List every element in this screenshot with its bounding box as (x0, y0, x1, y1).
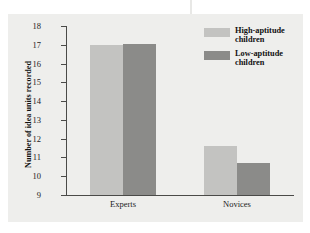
y-axis-tick (61, 176, 66, 177)
y-axis-tick (61, 157, 66, 158)
y-axis-tick (61, 64, 66, 65)
bar (204, 146, 237, 195)
legend-label-high-aptitude: High-aptitude children (235, 26, 301, 44)
scan-artifact (190, 0, 192, 14)
y-axis-tick-label: 10 (1, 172, 41, 181)
figure: Number of idea units recorded 1817161514… (0, 0, 310, 233)
x-axis-tick-label: Novices (180, 200, 294, 209)
y-axis-tick-label: 16 (1, 60, 41, 69)
y-axis-tick-label: 12 (1, 135, 41, 144)
chart-legend: High-aptitude children Low-aptitude chil… (204, 27, 304, 73)
x-axis-tick-label: Experts (66, 200, 180, 209)
bar (237, 163, 270, 195)
legend-item-high-aptitude: High-aptitude children (204, 27, 304, 45)
legend-swatch-high-aptitude (204, 28, 230, 37)
bar (90, 45, 123, 195)
y-axis-tick (61, 139, 66, 140)
y-axis-tick-label: 13 (1, 116, 41, 125)
bar (123, 44, 156, 195)
y-axis-tick (61, 195, 66, 196)
legend-label-low-aptitude: Low-aptitude children (235, 49, 301, 67)
legend-swatch-low-aptitude (204, 51, 230, 60)
legend-item-low-aptitude: Low-aptitude children (204, 50, 304, 68)
y-axis-tick (61, 120, 66, 121)
y-axis-tick (61, 45, 66, 46)
y-axis-tick-label: 14 (1, 97, 41, 106)
y-axis-tick (61, 26, 66, 27)
y-axis-tick-label: 9 (1, 191, 41, 200)
y-axis-tick-label: 11 (1, 153, 41, 162)
y-axis-tick (61, 101, 66, 102)
x-axis-line (66, 195, 294, 196)
y-axis-tick-label: 18 (1, 22, 41, 31)
y-axis-tick-label: 15 (1, 78, 41, 87)
chart-panel: Number of idea units recorded 1817161514… (8, 14, 303, 222)
y-axis-tick-label: 17 (1, 41, 41, 50)
y-axis-tick (61, 82, 66, 83)
y-axis-line (66, 26, 67, 196)
